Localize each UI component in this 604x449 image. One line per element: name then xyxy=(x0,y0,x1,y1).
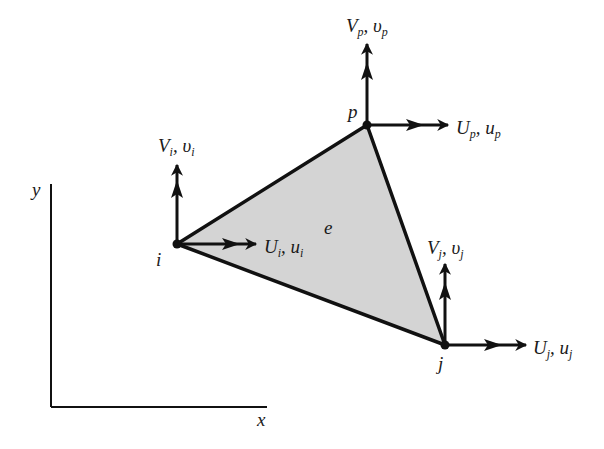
vertical-label-p: Vp, υp xyxy=(346,15,388,39)
horizontal-label-p: Up, up xyxy=(456,117,501,141)
node-label-i: i xyxy=(156,249,161,270)
y-axis-label: y xyxy=(30,179,41,200)
fem-triangle-diagram: y x e i Ui, ui Vi, υi p Up, up Vp, υp xyxy=(0,0,604,449)
node-dot-p xyxy=(363,121,372,130)
node-dot-j xyxy=(441,341,450,350)
node-label-p: p xyxy=(346,101,358,122)
element-label: e xyxy=(324,217,332,238)
triangle-element xyxy=(177,125,445,345)
node-j: j Uj, uj Vj, υj xyxy=(427,237,573,374)
node-dot-i xyxy=(173,240,182,249)
horizontal-label-j: Uj, uj xyxy=(533,337,573,361)
horizontal-label-i: Ui, ui xyxy=(264,236,303,260)
x-axis-label: x xyxy=(256,409,266,430)
node-p: p Up, up Vp, υp xyxy=(346,15,501,141)
vertical-label-j: Vj, υj xyxy=(427,237,464,261)
node-label-j: j xyxy=(435,353,443,374)
vertical-label-i: Vi, υi xyxy=(158,135,195,159)
